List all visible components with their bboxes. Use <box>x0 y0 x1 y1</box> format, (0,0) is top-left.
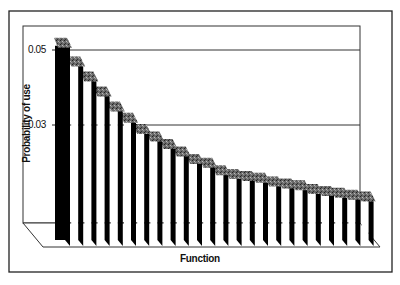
bar-side <box>237 177 242 246</box>
bar <box>54 38 72 246</box>
bar-side <box>223 173 228 246</box>
bar-front <box>124 121 131 240</box>
bar-front <box>282 186 289 240</box>
bar-side <box>210 166 215 246</box>
bar-side <box>197 162 202 246</box>
bar-front <box>230 177 237 240</box>
bar-front <box>164 147 171 240</box>
bar-front <box>362 200 369 241</box>
bar-front <box>322 194 329 240</box>
bar-side <box>369 200 374 247</box>
bar-side <box>276 185 281 247</box>
bar-side <box>131 121 136 246</box>
bar-front <box>309 192 316 240</box>
bar-front <box>150 140 157 241</box>
bar-front <box>111 110 118 241</box>
bar-side <box>65 46 70 246</box>
bar-front <box>84 80 91 241</box>
ytick-label: 0.05 <box>28 44 46 55</box>
bar-front <box>269 185 276 241</box>
bar-side <box>157 140 162 247</box>
bar-front <box>348 198 355 240</box>
bar-front <box>98 95 105 241</box>
bar-side <box>303 188 308 246</box>
y-axis-label: Probability of use <box>21 84 32 164</box>
bar-front <box>137 132 144 240</box>
bar-side <box>78 65 83 247</box>
bar-side <box>118 110 123 247</box>
bar-side <box>91 80 96 247</box>
bar-front <box>177 155 184 241</box>
bar-side <box>355 198 360 246</box>
bar-side <box>184 155 189 247</box>
bar-side <box>316 192 321 246</box>
bar-chart <box>0 0 400 285</box>
bar-side <box>289 186 294 246</box>
bar-front <box>203 166 210 240</box>
bar-side <box>329 194 334 246</box>
bar-side <box>263 181 268 246</box>
bar-side <box>171 147 176 246</box>
bar-side <box>250 179 255 246</box>
bar-side <box>144 132 149 246</box>
bar-front <box>216 173 223 240</box>
bar-front <box>71 65 78 241</box>
bar-side <box>105 95 110 247</box>
x-axis-label: Function <box>180 253 220 264</box>
bar-front <box>190 162 197 240</box>
bar-front <box>296 188 303 240</box>
bar-front <box>256 181 263 240</box>
bar-front <box>335 196 342 240</box>
bar-side <box>342 196 347 246</box>
bar-front <box>243 179 250 240</box>
